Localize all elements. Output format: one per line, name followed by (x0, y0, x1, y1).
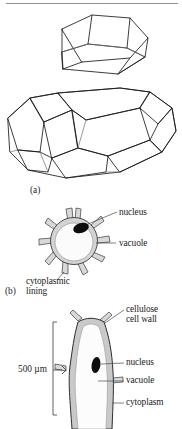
label-cell-wall: cell wall (126, 314, 157, 325)
label-nucleus-c: nucleus (126, 357, 154, 368)
label-cellulose: cellulose (126, 304, 158, 315)
scale-label-500um: 500 µm (18, 364, 47, 374)
figure-page: (a) (0, 0, 182, 429)
label-cytoplasm-c: cytoplasm (126, 397, 163, 408)
label-vacuole-c: vacuole (126, 375, 154, 386)
